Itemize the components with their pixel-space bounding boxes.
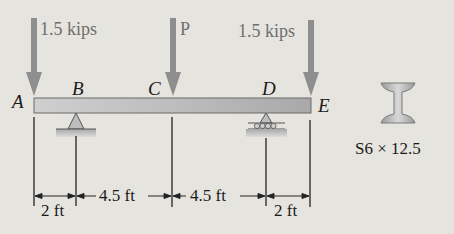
beam-diagram: 1.5 kips P 1.5 kips A B C D E 2 ft 4.5 f… — [0, 0, 454, 234]
point-label-a: A — [12, 92, 24, 111]
dimension-label-de: 2 ft — [274, 202, 297, 219]
roller-support-icon — [246, 113, 287, 137]
load-arrow-c-icon — [165, 18, 181, 96]
beam — [34, 98, 311, 113]
dimension-label-bc: 4.5 ft — [99, 187, 135, 204]
pin-support-icon — [56, 113, 96, 137]
dimension-label-cd: 4.5 ft — [190, 187, 226, 204]
point-label-e: E — [318, 96, 330, 115]
point-label-d: D — [262, 79, 276, 98]
ibeam-section-icon — [381, 83, 415, 123]
load-label-a: 1.5 kips — [40, 20, 97, 38]
section-label: S6 × 12.5 — [355, 140, 421, 157]
point-label-b: B — [72, 79, 84, 98]
load-arrow-e-icon — [303, 20, 319, 96]
load-label-c: P — [180, 20, 190, 38]
dimension-label-ab: 2 ft — [41, 202, 64, 219]
point-label-c: C — [148, 79, 161, 98]
load-label-e: 1.5 kips — [238, 22, 295, 40]
